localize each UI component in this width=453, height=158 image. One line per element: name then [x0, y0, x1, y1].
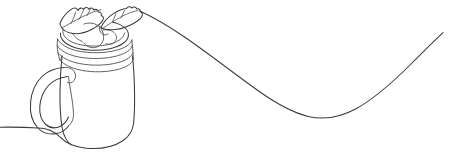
- illustration-canvas: Continuous one line drawing of a mason j…: [0, 0, 453, 158]
- one-line-drink-illustration: [0, 0, 453, 158]
- background-rect: [0, 0, 453, 158]
